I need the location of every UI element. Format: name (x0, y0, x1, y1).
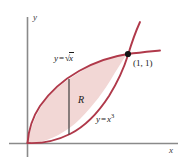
upper-curve-label-equals: = (58, 53, 65, 63)
sqrt-radicand: x (69, 52, 74, 63)
intersection-point-label: (1, 1) (133, 59, 153, 68)
lower-curve-label: y=x3 (96, 113, 114, 124)
x-axis-label: x (169, 146, 173, 155)
plot-canvas (0, 0, 188, 167)
region-label-R: R (78, 95, 84, 105)
lower-curve-exponent: 3 (111, 112, 114, 119)
intersection-dot (125, 51, 131, 57)
region-between-curves-figure: y x y=√x R y=x3 (1, 1) (0, 0, 188, 167)
sqrt-icon: √x (65, 54, 74, 63)
y-axis-label: y (33, 13, 37, 22)
upper-curve-label: y=√x (54, 54, 74, 63)
